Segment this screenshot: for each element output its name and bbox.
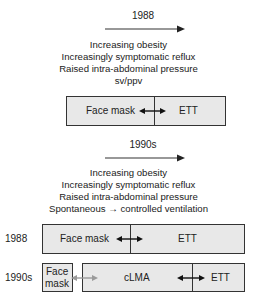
double-arrow-1990s-icon xyxy=(0,0,257,299)
